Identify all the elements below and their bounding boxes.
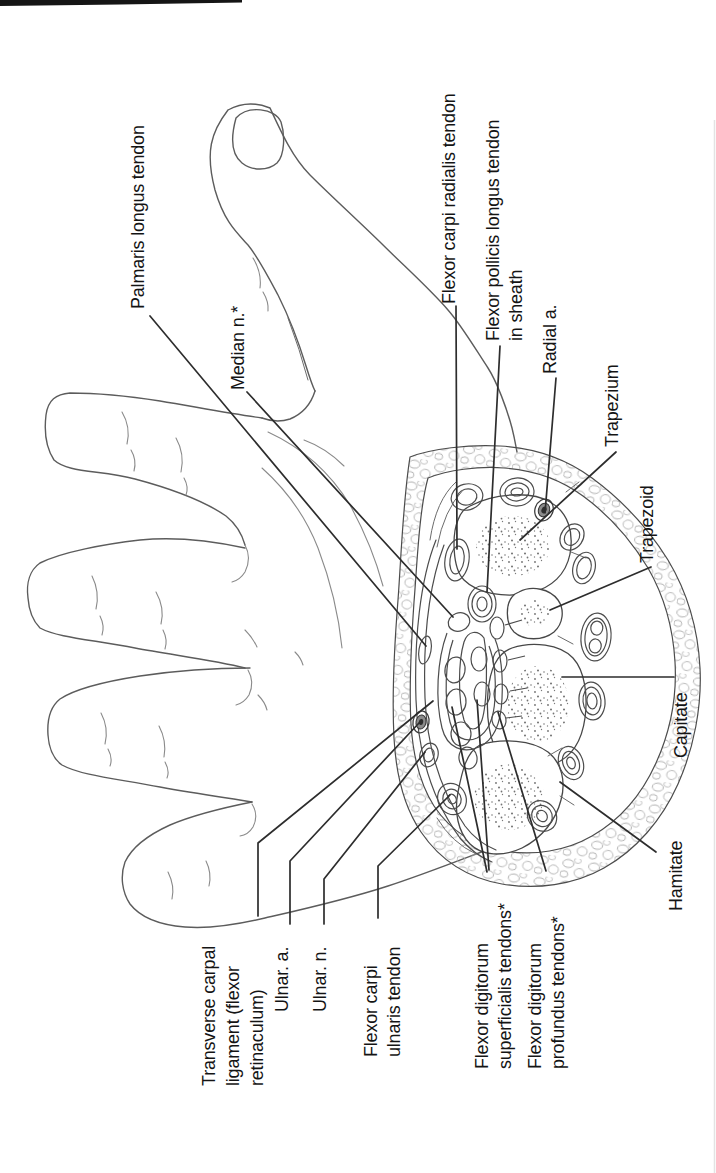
label-palmaris-longus-tendon: Palmaris longus tendon [128, 125, 148, 309]
thumb-outline [210, 104, 517, 452]
page-edge-mark [0, 0, 242, 6]
label-trapezoid: Trapezoid [637, 485, 657, 563]
label-capitate: Capitate [671, 692, 691, 758]
label-flexor-carpi-radialis-tendon: Flexor carpi radialis tendon [439, 93, 459, 304]
web-flourish-1 [232, 545, 249, 582]
ring-finger [48, 668, 252, 802]
leader-flexor-carpi-radialis [456, 306, 457, 549]
label-radial-artery: Radial a. [540, 305, 560, 374]
label-ulnar-nerve: Ulnar. n. [310, 947, 330, 1012]
label-median-nerve: Median n.* [228, 306, 248, 390]
label-flexor-carpi-ulnaris-line2: ulnaris tendon [384, 947, 404, 1057]
label-fds-line2: superficialis tendons* [495, 903, 515, 1069]
label-fdp-line2: profundus tendons* [548, 916, 568, 1069]
label-transverse-carpal-line3: retinaculum) [247, 989, 267, 1086]
extensor-ring-5 [579, 612, 613, 662]
middle-finger [28, 539, 246, 668]
label-trapezium: Trapezium [602, 364, 622, 447]
trapezoid-stipple [518, 600, 550, 626]
label-flexor-pollicis-longus-line2: in sheath [506, 270, 526, 341]
leader-palmaris-longus [150, 316, 426, 646]
label-flexor-pollicis-longus-line1: Flexor pollicis longus tendon [483, 120, 503, 341]
wrist-cross-section-figure: Palmaris longus tendon Median n.* Flexor… [0, 0, 716, 1173]
flexor-pollicis-longus-structure [468, 586, 496, 622]
label-hamate: Hamitate [666, 840, 686, 911]
thumb-nail [233, 110, 284, 169]
capitate-stipple [507, 666, 569, 742]
label-flexor-carpi-ulnaris-line1: Flexor carpi [361, 965, 381, 1057]
leader-trapezoid [550, 567, 651, 610]
web-flourish-3 [240, 804, 256, 836]
index-finger [45, 393, 262, 545]
leader-radial-artery [545, 378, 556, 513]
thumb-retrace-stroke [288, 318, 308, 380]
tendon-sheath-curl [460, 632, 487, 729]
label-ulnar-artery: Ulnar. a. [272, 947, 292, 1012]
web-flourish-2 [236, 670, 252, 705]
trapezium-stipple [476, 516, 550, 576]
label-transverse-carpal-line1: Transverse carpal [199, 946, 219, 1086]
label-fds-line1: Flexor digitorum [472, 943, 492, 1069]
extensor-ring-4 [569, 550, 599, 587]
label-fdp-line1: Flexor digitorum [525, 943, 545, 1069]
label-transverse-carpal-line2: ligament (flexor [223, 966, 243, 1086]
